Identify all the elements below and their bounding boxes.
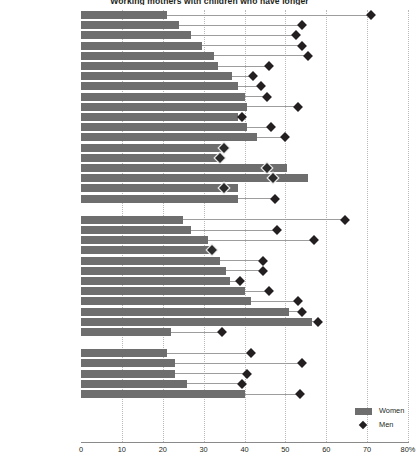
- legend-row-men: Men: [355, 418, 417, 432]
- chart-row: Cyprus: [81, 235, 408, 245]
- men-diamond-marker: [238, 379, 248, 389]
- women-bar: [81, 21, 179, 29]
- chart-row: Netherlands: [81, 61, 408, 71]
- gap-connector: [167, 15, 371, 16]
- women-bar: [81, 277, 230, 285]
- gap-connector: [251, 301, 298, 302]
- men-diamond-marker: [297, 358, 307, 368]
- chart-row: Austria: [81, 71, 408, 81]
- x-tick-label-80: 80%: [401, 445, 416, 454]
- chart-row: Czech Republic: [81, 256, 408, 266]
- gap-connector: [175, 363, 302, 364]
- bar-rows: ItalyGreeceSpainBelgiumFranceNetherlands…: [81, 10, 408, 442]
- men-diamond-marker: [264, 286, 274, 296]
- men-diamond-marker: [340, 215, 350, 225]
- men-diamond-marker: [235, 276, 245, 286]
- women-bar: [81, 144, 224, 152]
- women-bar: [81, 31, 191, 39]
- chart-row: Italy: [81, 10, 408, 20]
- men-diamond-marker: [246, 348, 256, 358]
- chart-row: Denmark: [81, 163, 408, 173]
- men-diamond-marker: [293, 296, 303, 306]
- men-diamond-marker: [266, 122, 276, 132]
- women-bar: [81, 328, 171, 336]
- chart-row: United Kingdom: [81, 112, 408, 122]
- women-bar: [81, 226, 191, 234]
- men-diamond-marker: [295, 389, 305, 399]
- chart-row: Spain: [81, 30, 408, 40]
- women-bar: [81, 72, 232, 80]
- chart-row: Poland: [81, 327, 408, 337]
- gap-connector: [208, 240, 314, 241]
- men-diamond-marker: [293, 102, 303, 112]
- men-diamond-marker: [297, 307, 307, 317]
- women-bar: [81, 349, 167, 357]
- gap-connector: [245, 394, 300, 395]
- chart-row: Luxembourg: [81, 92, 408, 102]
- women-bar: [81, 236, 208, 244]
- chart-root: Working mothers with children who have l…: [0, 0, 419, 459]
- chart-row: Romania: [81, 266, 408, 276]
- chart-row: Finland: [81, 132, 408, 142]
- chart-row: Hungary: [81, 245, 408, 255]
- plot-area: ItalyGreeceSpainBelgiumFranceNetherlands…: [81, 10, 408, 442]
- x-tick-label-20: 20: [159, 445, 167, 454]
- men-diamond-marker: [256, 81, 266, 91]
- chart-row: Switzerland: [81, 143, 408, 153]
- men-diamond-marker: [264, 61, 274, 71]
- women-bar: [81, 297, 251, 305]
- chart-row: Norway: [81, 173, 408, 183]
- chart-row: Latvia: [81, 307, 408, 317]
- chart-row: Croatia: [81, 379, 408, 389]
- gap-connector: [247, 106, 298, 107]
- chart-row: Macedonia FYR: [81, 348, 408, 358]
- men-diamond-marker: [217, 327, 227, 337]
- women-bar: [81, 42, 202, 50]
- chart-row: Sweden: [81, 153, 408, 163]
- women-bar: [81, 133, 257, 141]
- gap-connector: [179, 25, 302, 26]
- gap-connector: [220, 260, 263, 261]
- men-diamond-marker: [280, 132, 290, 142]
- chart-legend: Women Men: [355, 404, 417, 432]
- women-bar: [81, 113, 238, 121]
- women-bar: [81, 267, 226, 275]
- gap-connector: [171, 332, 222, 333]
- women-bar: [81, 93, 245, 101]
- men-diamond-marker: [272, 225, 282, 235]
- chart-row: Lithuania: [81, 296, 408, 306]
- chart-row: Belgium: [81, 41, 408, 51]
- legend-men-label: Men: [379, 420, 393, 429]
- men-diamond-marker: [262, 92, 272, 102]
- chart-row: Iceland: [81, 183, 408, 193]
- chart-row: Ireland: [81, 102, 408, 112]
- women-bar: [81, 308, 289, 316]
- men-diamond-marker: [258, 256, 268, 266]
- women-bar: [81, 216, 183, 224]
- gridline-80: [408, 10, 410, 442]
- women-bar: [81, 359, 175, 367]
- men-diamond-marker: [309, 235, 319, 245]
- x-axis-line: [81, 442, 409, 443]
- chart-row: Estonia: [81, 317, 408, 327]
- gap-connector: [167, 353, 251, 354]
- women-bar: [81, 123, 247, 131]
- men-diamond-marker: [291, 30, 301, 40]
- women-bar: [81, 154, 220, 162]
- gap-connector: [175, 373, 247, 374]
- legend-men-diamond-icon: [359, 421, 367, 429]
- women-bar: [81, 195, 238, 203]
- chart-row: EU15: [81, 194, 408, 204]
- chart-row: Slovakia: [81, 286, 408, 296]
- legend-women-swatch-icon: [355, 408, 372, 415]
- chart-row: Bulgaria: [81, 276, 408, 286]
- women-bar: [81, 370, 175, 378]
- women-bar: [81, 257, 220, 265]
- x-axis-tick-labels: 01020304050607080%: [0, 445, 419, 457]
- chart-row: Russian Federation: [81, 389, 408, 399]
- men-diamond-marker: [366, 10, 376, 20]
- women-bar: [81, 380, 187, 388]
- men-diamond-marker: [258, 266, 268, 276]
- men-diamond-marker: [303, 51, 313, 61]
- x-tick-label-10: 10: [118, 445, 126, 454]
